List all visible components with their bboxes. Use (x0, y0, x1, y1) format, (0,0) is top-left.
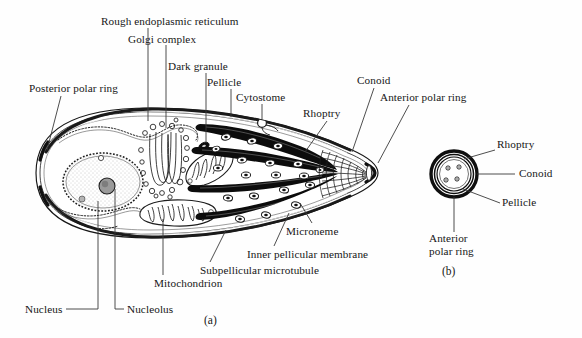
leader-b-pellicle (463, 189, 500, 203)
label-b-pellicle: Pellicle (502, 196, 536, 209)
label-microneme: Microneme (286, 225, 338, 238)
label-rhoptry: Rhoptry (303, 107, 340, 120)
panel-caption-b: (b) (442, 265, 455, 277)
nucleus (63, 153, 143, 211)
label-rough-endoplasmic-reticulum: Rough endoplasmic reticulum (101, 15, 239, 28)
label-mitochondrion: Mitochondrion (154, 277, 222, 290)
cell-body-group (36, 108, 378, 238)
label-nucleus: Nucleus (25, 303, 62, 316)
label-b-anterior-polar-ring-line1: Anterior (429, 232, 468, 245)
label-pellicle: Pellicle (207, 76, 241, 89)
figure-container: Rough endoplasmic reticulum Golgi comple… (0, 0, 582, 338)
chromatin-clump (79, 196, 85, 202)
apical-cross-section-lumen (440, 160, 469, 189)
label-inner-pellicular-membrane: Inner pellicular membrane (247, 248, 368, 261)
label-dark-granule: Dark granule (168, 60, 228, 73)
cross-section-group (431, 151, 477, 197)
panel-caption-a: (a) (204, 314, 217, 326)
leader-conoid (352, 88, 374, 152)
label-posterior-polar-ring: Posterior polar ring (29, 82, 118, 95)
label-golgi-complex: Golgi complex (128, 33, 196, 46)
label-b-anterior-polar-ring-line2: polar ring (429, 245, 474, 258)
diagram-artwork (0, 0, 582, 338)
label-nucleolus: Nucleolus (127, 303, 173, 316)
nuclear-pore (98, 155, 103, 160)
label-b-conoid: Conoid (519, 167, 553, 180)
label-cytostome: Cytostome (236, 91, 285, 104)
label-conoid: Conoid (357, 74, 391, 87)
label-anterior-polar-ring: Anterior polar ring (380, 91, 466, 104)
leader-anterior-polar-ring (378, 105, 409, 163)
label-subpellicular-microtubule: Subpellicular microtubule (200, 264, 319, 277)
label-b-rhoptry: Rhoptry (497, 138, 534, 151)
